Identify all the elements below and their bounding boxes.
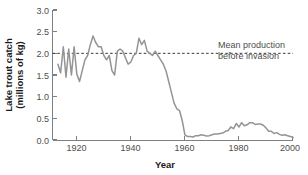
- line-chart: 3.0 2.5 2.0 1.5 1.0 0.5 0.0 Lake trout c…: [0, 0, 308, 175]
- y-axis-title-line1: Lake trout catch: [3, 38, 14, 112]
- y-tick-label-3-0: 3.0: [36, 6, 49, 16]
- x-tick-label-1920: 1920: [66, 143, 86, 153]
- y-tick-label-2-0: 2.0: [36, 49, 49, 59]
- y-tick-label-0-5: 0.5: [36, 114, 49, 124]
- x-axis-group: 1920 1940 1960 1980 2000 Year: [53, 136, 301, 170]
- mean-production-annotation: Mean production before invasion: [218, 40, 285, 61]
- annotation-line-2: before invasion: [218, 51, 279, 61]
- x-tick-label-1940: 1940: [120, 143, 140, 153]
- y-axis-title-line2: (millions of kg): [14, 41, 25, 109]
- y-tick-label-1-5: 1.5: [36, 71, 49, 81]
- x-tick-label-2000: 2000: [280, 143, 300, 153]
- y-tick-label-1-0: 1.0: [36, 92, 49, 102]
- y-tick-label-0-0: 0.0: [36, 136, 49, 146]
- x-axis-title: Year: [155, 159, 175, 170]
- annotation-line-1: Mean production: [218, 40, 285, 50]
- y-tick-label-2-5: 2.5: [36, 27, 49, 37]
- y-axis-group: 3.0 2.5 2.0 1.5 1.0 0.5 0.0: [36, 6, 57, 146]
- x-tick-label-1960: 1960: [174, 143, 194, 153]
- y-axis-title-group: Lake trout catch (millions of kg): [3, 38, 25, 112]
- x-tick-label-1980: 1980: [228, 143, 248, 153]
- y-tick-labels: 3.0 2.5 2.0 1.5 1.0 0.5 0.0: [36, 6, 49, 146]
- x-axis-ticks: [77, 136, 293, 141]
- x-tick-labels: 1920 1940 1960 1980 2000: [66, 143, 300, 153]
- chart-figure: 3.0 2.5 2.0 1.5 1.0 0.5 0.0 Lake trout c…: [0, 0, 308, 175]
- y-axis-ticks: [53, 10, 58, 140]
